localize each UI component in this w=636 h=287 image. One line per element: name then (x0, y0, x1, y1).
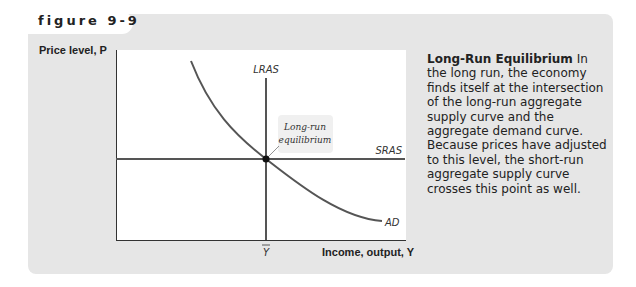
figure-caption: Long-Run Equilibrium In the long run, th… (427, 52, 607, 196)
ybar-tick-label: Y (263, 247, 270, 258)
plot-area (116, 50, 406, 240)
sras-label: SRAS (376, 145, 403, 156)
eq-label-line2: equilibrium (279, 135, 332, 145)
caption-title: Long-Run Equilibrium (427, 52, 573, 66)
equilibrium-point (263, 156, 270, 163)
eq-label-line1: Long-run (283, 122, 326, 132)
caption-body: In the long run, the economy finds itsel… (427, 52, 607, 196)
ad-label: AD (384, 217, 400, 228)
equilibrium-annotation-box (278, 115, 333, 153)
x-axis-label: Income, output, Y (322, 246, 414, 258)
lras-label: LRAS (253, 64, 279, 75)
